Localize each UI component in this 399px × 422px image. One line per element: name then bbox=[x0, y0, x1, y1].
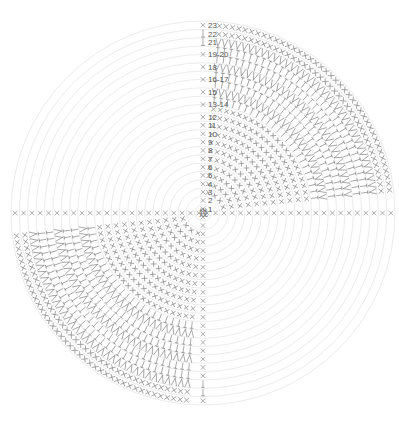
sc-stitch-icon bbox=[221, 205, 226, 210]
sc-stitch-icon bbox=[268, 168, 273, 173]
sc-stitch-icon bbox=[271, 174, 276, 179]
sc-stitch-icon bbox=[265, 181, 270, 186]
hdc-stitch-icon bbox=[274, 104, 280, 111]
hdc-stitch-icon bbox=[131, 329, 137, 336]
sc-stitch-icon bbox=[201, 23, 205, 27]
sc-stitch-icon bbox=[23, 239, 28, 244]
sc-stitch-icon bbox=[291, 178, 296, 183]
hdc-stitch-icon bbox=[360, 184, 367, 188]
hdc-stitch-icon bbox=[293, 146, 300, 152]
increase-stitch-icon bbox=[233, 67, 240, 75]
row-number: 23 bbox=[208, 21, 217, 30]
hdc-stitch-icon bbox=[334, 180, 341, 184]
hdc-stitch-icon bbox=[115, 307, 121, 314]
hdc-stitch-icon bbox=[324, 105, 331, 111]
sc-stitch-icon bbox=[376, 143, 382, 149]
hdc-stitch-icon bbox=[92, 321, 99, 328]
sc-stitch-icon bbox=[247, 211, 251, 215]
hdc-stitch-icon bbox=[299, 158, 306, 164]
increase-stitch-icon bbox=[226, 65, 232, 73]
hdc-stitch-icon bbox=[71, 260, 78, 265]
sc-stitch-icon bbox=[160, 232, 165, 237]
sc-stitch-icon bbox=[153, 284, 158, 289]
hdc-stitch-icon bbox=[242, 52, 246, 59]
hdc-stitch-icon bbox=[130, 347, 135, 354]
sc-stitch-icon bbox=[30, 211, 34, 215]
sc-stitch-icon bbox=[264, 163, 269, 168]
hdc-stitch-icon bbox=[116, 349, 122, 356]
increase-stitch-icon bbox=[175, 327, 181, 335]
sc-stitch-icon bbox=[168, 243, 173, 248]
increase-stitch-icon bbox=[180, 354, 186, 362]
hdc-stitch-icon bbox=[153, 365, 158, 372]
hdc-stitch-icon bbox=[336, 121, 343, 127]
hdc-stitch-icon bbox=[299, 127, 306, 133]
sc-stitch-icon bbox=[121, 380, 127, 386]
sc-stitch-icon bbox=[191, 306, 195, 310]
sc-stitch-icon bbox=[45, 300, 51, 306]
row-number: 11 bbox=[208, 121, 217, 130]
sc-stitch-icon bbox=[152, 294, 157, 299]
sc-stitch-icon bbox=[113, 268, 118, 273]
hdc-stitch-icon bbox=[340, 127, 347, 133]
sc-stitch-icon bbox=[274, 149, 279, 154]
hdc-stitch-icon bbox=[42, 251, 49, 255]
sc-stitch-icon bbox=[159, 385, 164, 390]
hdc-stitch-icon bbox=[336, 193, 343, 197]
hdc-stitch-icon bbox=[253, 64, 258, 71]
sc-stitch-icon bbox=[148, 245, 153, 250]
hdc-stitch-icon bbox=[88, 316, 95, 322]
sc-stitch-icon bbox=[274, 37, 280, 43]
sc-stitch-icon bbox=[201, 132, 205, 136]
sc-stitch-icon bbox=[272, 160, 277, 165]
hdc-stitch-icon bbox=[85, 271, 92, 277]
sc-stitch-icon bbox=[280, 143, 285, 148]
sc-stitch-icon bbox=[149, 226, 154, 231]
hdc-stitch-icon bbox=[240, 60, 244, 67]
sc-stitch-icon bbox=[164, 238, 169, 243]
sc-stitch-icon bbox=[381, 211, 385, 215]
hdc-stitch-icon bbox=[325, 181, 332, 185]
sc-stitch-icon bbox=[139, 221, 143, 225]
hdc-stitch-icon bbox=[71, 310, 78, 316]
sc-stitch-icon bbox=[242, 36, 247, 41]
sc-stitch-icon bbox=[132, 228, 137, 233]
hdc-stitch-icon bbox=[140, 305, 146, 312]
hdc-stitch-icon bbox=[247, 62, 252, 69]
sc-stitch-icon bbox=[173, 276, 178, 281]
sc-stitch-icon bbox=[135, 292, 140, 297]
increase-stitch-icon bbox=[172, 378, 178, 386]
sc-stitch-icon bbox=[228, 145, 233, 150]
sc-stitch-icon bbox=[193, 281, 197, 285]
sc-stitch-icon bbox=[187, 263, 192, 268]
hdc-stitch-icon bbox=[240, 77, 245, 84]
hdc-stitch-icon bbox=[149, 328, 154, 335]
increase-stitch-icon bbox=[54, 229, 62, 235]
increase-stitch-icon bbox=[169, 326, 176, 334]
hdc-stitch-icon bbox=[269, 91, 275, 98]
sc-stitch-icon bbox=[243, 124, 248, 129]
sc-stitch-icon bbox=[180, 278, 185, 283]
sc-stitch-icon bbox=[282, 178, 287, 183]
sc-stitch-icon bbox=[98, 367, 104, 373]
sc-stitch-icon bbox=[171, 293, 176, 298]
sc-stitch-icon bbox=[227, 154, 232, 159]
sc-stitch-icon bbox=[106, 224, 110, 228]
sc-stitch-icon bbox=[302, 52, 308, 58]
row-label: 11 bbox=[201, 121, 217, 130]
sc-stitch-icon bbox=[213, 175, 218, 180]
sc-stitch-icon bbox=[230, 25, 235, 30]
hdc-stitch-icon bbox=[285, 136, 292, 142]
sc-stitch-icon bbox=[128, 260, 133, 265]
hdc-stitch-icon bbox=[328, 161, 335, 166]
sc-stitch-icon bbox=[330, 211, 334, 215]
sc-stitch-icon bbox=[195, 239, 199, 243]
sc-stitch-icon bbox=[259, 188, 264, 193]
increase-stitch-icon bbox=[369, 189, 377, 195]
sc-stitch-icon bbox=[383, 168, 388, 173]
increase-stitch-icon bbox=[30, 238, 38, 244]
sc-stitch-icon bbox=[168, 230, 173, 235]
hdc-stitch-icon bbox=[114, 317, 120, 324]
sc-stitch-icon bbox=[339, 211, 343, 215]
sc-stitch-icon bbox=[237, 113, 242, 118]
